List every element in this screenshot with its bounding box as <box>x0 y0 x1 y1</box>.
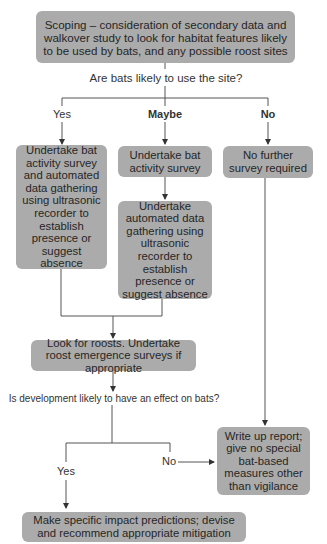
yes-action-box: Undertake bat activity survey and automa… <box>16 145 107 269</box>
effect-no-label: No <box>162 455 176 467</box>
branch-no-label: No <box>261 108 276 120</box>
no-further-survey-box: No further survey required <box>223 146 313 178</box>
question-bats-use-site: Are bats likely to use the site? <box>90 72 243 84</box>
maybe-automated-text: Undertake automated data gathering using… <box>121 200 209 301</box>
mitigation-box: Make specific impact predictions; devise… <box>22 512 246 542</box>
no-further-survey-text: No further survey required <box>226 149 310 174</box>
question-development-effect: Is development likely to have an effect … <box>9 393 220 404</box>
maybe-activity-survey-box: Undertake bat activity survey <box>118 146 212 177</box>
look-for-roosts-text: Look for roosts. Undertake roost emergen… <box>34 337 193 375</box>
yes-action-text: Undertake bat activity survey and automa… <box>19 144 104 270</box>
maybe-automated-box: Undertake automated data gathering using… <box>118 201 212 299</box>
write-up-report-box: Write up report; give no special bat-bas… <box>217 427 310 495</box>
branch-maybe-label: Maybe <box>148 108 182 120</box>
scoping-box: Scoping – consideration of secondary dat… <box>36 11 295 63</box>
look-for-roosts-box: Look for roosts. Undertake roost emergen… <box>31 340 196 371</box>
maybe-activity-survey-text: Undertake bat activity survey <box>121 149 209 174</box>
branch-yes-label: Yes <box>53 108 71 120</box>
effect-yes-label: Yes <box>57 465 75 477</box>
mitigation-text: Make specific impact predictions; devise… <box>25 514 243 539</box>
scoping-text: Scoping – consideration of secondary dat… <box>39 18 292 57</box>
write-up-report-text: Write up report; give no special bat-bas… <box>220 430 307 493</box>
